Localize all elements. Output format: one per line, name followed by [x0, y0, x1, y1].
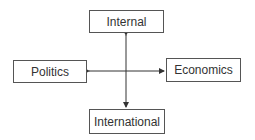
- node-politics-label: Politics: [31, 65, 69, 79]
- node-international: International: [89, 109, 165, 134]
- node-economics: Economics: [166, 58, 241, 82]
- node-internal-label: Internal: [106, 15, 146, 29]
- diagram-canvas: Internal Politics Economics Internationa…: [0, 0, 255, 140]
- node-economics-label: Economics: [174, 63, 233, 77]
- node-politics: Politics: [13, 60, 87, 83]
- node-internal: Internal: [89, 10, 164, 33]
- node-international-label: International: [94, 115, 160, 129]
